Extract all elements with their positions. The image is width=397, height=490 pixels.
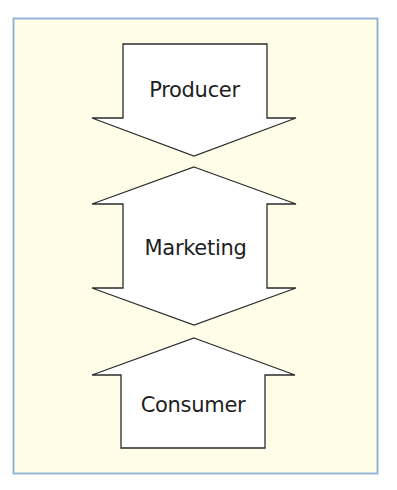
diagram-canvas: Producer Marketing Consumer [0, 0, 397, 490]
producer-label: Producer [149, 78, 240, 102]
marketing-label: Marketing [145, 236, 247, 260]
consumer-label: Consumer [141, 393, 246, 417]
